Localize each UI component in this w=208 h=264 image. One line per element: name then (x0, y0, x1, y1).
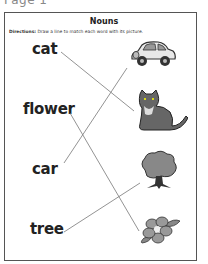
car-icon (128, 39, 178, 69)
tree-icon (139, 150, 179, 190)
line-flower (70, 113, 139, 231)
line-car (64, 68, 127, 163)
cat-icon (136, 90, 188, 134)
flower-icon (138, 216, 182, 244)
line-cat (61, 52, 134, 111)
line-tree (64, 183, 140, 232)
